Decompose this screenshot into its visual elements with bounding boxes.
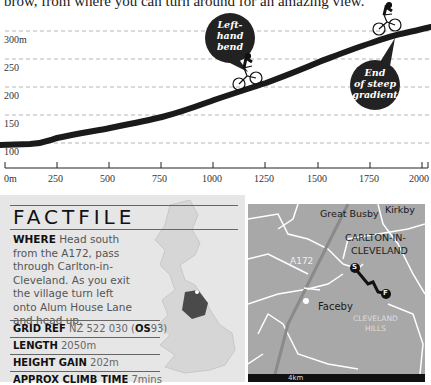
map-label-hills-1: CLEVELAND: [353, 314, 398, 323]
x-label-500: 500: [100, 173, 115, 184]
x-label-1000: 1000: [202, 173, 222, 184]
y-label-250: 250: [4, 62, 19, 73]
elevation-chart: 300m 250 200 150 100 0m 250 500 750 1000…: [0, 0, 431, 195]
factfile-grid-ref: GRID REF NZ 522 030 (OS93): [13, 323, 167, 334]
finish-label: F: [383, 289, 388, 297]
factfile-climb-time: APPROX CLIMB TIME 7mins: [13, 374, 162, 385]
start-label: S: [352, 263, 357, 271]
x-label-1250: 1250: [254, 173, 274, 184]
x-label-250: 250: [48, 173, 63, 184]
x-label-750: 750: [152, 173, 167, 184]
route-map: Great Busby Kirkby CARLTON-IN- CLEVELAND…: [248, 204, 425, 382]
y-label-150: 150: [4, 118, 19, 129]
x-label-1500: 1500: [307, 173, 327, 184]
svg-text:hand: hand: [217, 30, 244, 41]
map-label-faceby: Faceby: [318, 301, 353, 312]
map-label-hills-2: HILLS: [365, 324, 386, 333]
scale-bar: 4km: [248, 374, 425, 382]
cyclist-icon: [373, 3, 401, 36]
factfile-title: FACTFILE: [13, 205, 135, 229]
svg-text:End: End: [364, 67, 386, 78]
map-label-carlton-2: CLEVELAND: [351, 245, 408, 256]
svg-text:of steep: of steep: [354, 78, 397, 89]
x-label-1750: 1750: [359, 173, 379, 184]
annotation-left-hand-bend: Left- hand bend: [205, 13, 255, 72]
svg-text:gradient: gradient: [352, 89, 398, 100]
y-label-200: 200: [4, 90, 19, 101]
factfile-where: WHERE Head south from the A172, pass thr…: [13, 233, 138, 328]
factfile-height-gain: HEIGHT GAIN 202m: [13, 357, 119, 368]
factfile-panel: FACTFILE WHERE Head south from the A172,…: [0, 195, 245, 382]
map-label-a172: A172: [290, 256, 313, 266]
x-label-2000: 2000: [409, 173, 429, 184]
svg-text:bend: bend: [217, 41, 244, 52]
factfile-length: LENGTH 2050m: [13, 340, 96, 351]
svg-text:Left-: Left-: [216, 19, 242, 30]
map-label-kirkby: Kirkby: [385, 204, 415, 215]
x-label-0: 0m: [4, 173, 17, 184]
y-label-300: 300m: [4, 34, 27, 45]
x-axis: [5, 162, 428, 168]
map-label-carlton-1: CARLTON-IN-: [345, 232, 406, 243]
map-label-great-busby: Great Busby: [320, 208, 379, 219]
